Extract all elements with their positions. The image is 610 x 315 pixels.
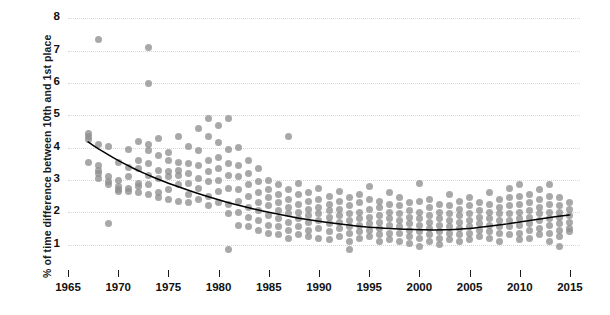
x-tick-label-1980: 1980 [196,281,242,293]
x-tick-1980 [219,270,220,277]
x-tick-1995 [369,270,370,277]
x-tick-1990 [319,270,320,277]
x-tick-label-1985: 1985 [246,281,292,293]
x-tick-label-2005: 2005 [447,281,493,293]
x-tick-2000 [419,270,420,277]
x-tick-label-1970: 1970 [95,281,141,293]
x-tick-2010 [520,270,521,277]
y-tick-label-5: 5 [46,107,60,119]
trend-line-path [88,142,570,230]
x-tick-label-1995: 1995 [346,281,392,293]
x-tick-label-2010: 2010 [497,281,543,293]
y-tick-label-2: 2 [46,204,60,216]
x-tick-label-2015: 2015 [547,281,593,293]
x-tick-label-1965: 1965 [45,281,91,293]
x-tick-1970 [118,270,119,277]
x-tick-label-2000: 2000 [396,281,442,293]
x-tick-1965 [68,270,69,277]
y-tick-label-3: 3 [46,172,60,184]
x-tick-label-1975: 1975 [145,281,191,293]
x-tick-label-1990: 1990 [296,281,342,293]
trend-line [68,12,580,264]
x-tick-1975 [168,270,169,277]
y-tick-label-4: 4 [46,140,60,152]
y-tick-label-1: 1 [46,237,60,249]
y-tick-label-6: 6 [46,75,60,87]
x-tick-1985 [269,270,270,277]
y-tick-label-8: 8 [46,10,60,22]
y-tick-label-7: 7 [46,43,60,55]
plot-area [68,12,580,264]
scatter-chart: % of time difference between 10th and 1s… [0,0,610,315]
x-tick-2015 [570,270,571,277]
x-tick-2005 [470,270,471,277]
